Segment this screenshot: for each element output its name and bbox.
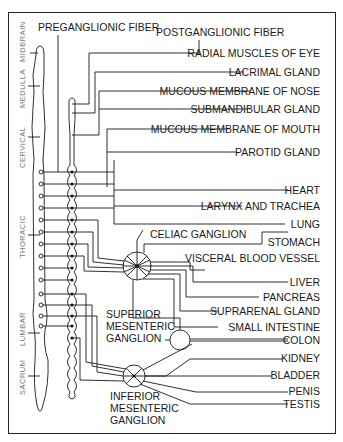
target-stomach: STOMACH — [268, 236, 320, 248]
inferior-label-2: MESENTERIC — [110, 402, 179, 414]
target-small-intestine: SMALL INTESTINE — [228, 321, 320, 333]
target-lacrimal-gland: LACRIMAL GLAND — [229, 66, 321, 78]
target-radial-muscles-eye: RADIAL MUSCLES OF EYE — [187, 47, 320, 59]
target-heart: HEART — [285, 184, 321, 196]
region-lumbar: LUMBAR — [18, 312, 27, 346]
region-sacrum: SACRUM — [18, 359, 27, 395]
target-pancreas: PANCREAS — [263, 291, 320, 303]
target-mucous-membrane-nose: MUCOUS MEMBRANE OF NOSE — [160, 85, 320, 97]
target-testis: TESTIS — [283, 398, 320, 410]
sympathetic-nervous-system-diagram: PREGANGLIONIC FIBER POSTGANGLIONIC FIBER… — [0, 0, 343, 442]
superior-label-1: SUPERIOR — [106, 308, 161, 320]
celiac-ganglion-label: CELIAC GANGLION — [150, 228, 246, 240]
target-liver: LIVER — [290, 276, 321, 288]
target-kidney: KIDNEY — [281, 352, 320, 364]
region-medulla: MEDULLA — [18, 69, 27, 108]
region-cervical: CERVICAL — [18, 127, 27, 168]
inferior-label-1: INFERIOR — [110, 390, 161, 402]
target-mucous-membrane-mouth: MUCOUS MEMBRANE OF MOUTH — [151, 123, 320, 135]
region-thoracic: THORACIC — [18, 215, 27, 258]
region-midbrain: MIDBRAIN — [18, 21, 27, 62]
target-lung: LUNG — [291, 218, 320, 230]
superior-label-3: GANGLION — [106, 332, 161, 344]
postganglionic-fiber-label: POSTGANGLIONIC FIBER — [156, 26, 285, 38]
target-visceral-blood-vessel: VISCERAL BLOOD VESSEL — [185, 252, 320, 264]
preganglionic-fiber-label: PREGANGLIONIC FIBER — [38, 21, 160, 33]
target-submandibular-gland: SUBMANDIBULAR GLAND — [190, 103, 320, 115]
target-colon: COLON — [283, 334, 320, 346]
superior-label-2: MESENTERIC — [106, 320, 175, 332]
inferior-label-3: GANGLION — [110, 414, 165, 426]
target-parotid-gland: PAROTID GLAND — [235, 146, 320, 158]
target-penis: PENIS — [288, 385, 320, 397]
target-suprarenal-gland: SUPRARENAL GLAND — [210, 305, 320, 317]
target-bladder: BLADDER — [270, 369, 320, 381]
target-larynx-trachea: LARYNX AND TRACHEA — [201, 200, 320, 212]
